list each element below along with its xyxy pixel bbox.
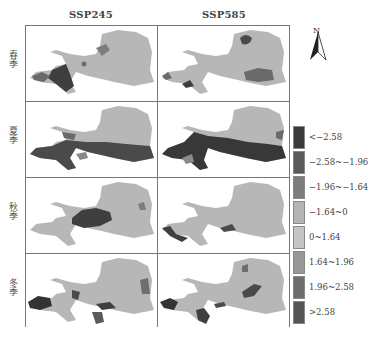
region-map [26, 178, 158, 254]
legend-label: 0~1.64 [309, 232, 340, 242]
legend-swatch [293, 151, 305, 174]
map-panel-summer-ssp245 [26, 102, 158, 178]
region-map [26, 254, 158, 327]
legend-swatch [293, 176, 305, 199]
region-map [158, 178, 290, 254]
legend-label: <−2.58 [309, 132, 342, 142]
legend-label: −2.58~−1.96 [309, 157, 368, 167]
legend-swatch [293, 226, 305, 249]
map-panel-winter-ssp585 [158, 254, 290, 327]
map-panel-autumn-ssp245 [26, 178, 158, 254]
region-map [26, 102, 158, 178]
region-map [158, 26, 290, 102]
region-map [158, 254, 290, 327]
legend-label: 1.64~1.96 [309, 257, 354, 267]
legend-swatch [293, 251, 305, 274]
map-panel-autumn-ssp585 [158, 178, 290, 254]
region-map [26, 26, 158, 102]
legend-item: >2.58 [293, 301, 383, 325]
legend-label: 1.96~2.58 [309, 282, 354, 292]
legend-swatch [293, 126, 305, 149]
map-panel-spring-ssp585 [158, 26, 290, 102]
legend-item: −2.58~−1.96 [293, 151, 383, 175]
row-label-winter: 冬季 [6, 278, 20, 296]
legend-item: <−2.58 [293, 126, 383, 150]
legend-label: −1.64~0 [309, 207, 348, 217]
legend-item: −1.64~0 [293, 201, 383, 225]
legend-swatch [293, 201, 305, 224]
legend-label: −1.96~−1.64 [309, 182, 368, 192]
row-label-spring: 春季 [6, 50, 20, 68]
legend-item: −1.96~−1.64 [293, 176, 383, 200]
map-panel-spring-ssp245 [26, 26, 158, 102]
map-grid [25, 25, 290, 327]
map-panel-summer-ssp585 [158, 102, 290, 178]
legend-item: 1.64~1.96 [293, 251, 383, 275]
legend-swatch [293, 301, 305, 324]
legend-item: 1.96~2.58 [293, 276, 383, 300]
column-title-ssp585: SSP585 [174, 9, 274, 20]
row-label-autumn: 秋季 [6, 202, 20, 220]
north-arrow-icon [306, 26, 330, 66]
map-panel-winter-ssp245 [26, 254, 158, 327]
legend-swatch [293, 276, 305, 299]
row-label-summer: 夏季 [6, 126, 20, 144]
region-map [158, 102, 290, 178]
legend-item: 0~1.64 [293, 226, 383, 250]
legend-label: >2.58 [309, 307, 335, 317]
column-title-ssp245: SSP245 [41, 9, 141, 20]
